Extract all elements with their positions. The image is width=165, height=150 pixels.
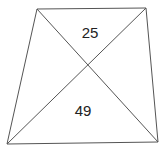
area-label-top: 25	[82, 24, 99, 41]
trapezoid-diagram: 25 49	[0, 0, 165, 150]
area-label-bottom: 49	[75, 102, 92, 119]
diagonal-tr-bl	[7, 8, 146, 144]
